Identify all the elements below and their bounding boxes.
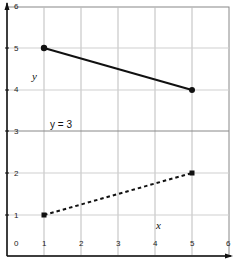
y-tick-label: 5 (14, 44, 19, 53)
y-tick-label: 1 (14, 211, 19, 220)
point-5-4 (189, 87, 195, 93)
y-tick-label: 4 (14, 85, 19, 94)
y-tick-label: 3 (14, 127, 19, 136)
point-5-2 (190, 171, 195, 176)
x-tick-label: 2 (79, 239, 84, 248)
chart: 1 2 3 4 5 6 0 1 2 3 4 5 6 y x y = 3 (0, 0, 233, 260)
y-axis-arrow-icon (5, 2, 10, 10)
y-tick-label: 6 (14, 2, 19, 11)
y-tick-label: 2 (14, 169, 19, 178)
x-axis-label: x (155, 219, 161, 231)
x-tick-label: 1 (42, 239, 47, 248)
origin-label: 0 (14, 239, 19, 248)
x-tick-label: 3 (116, 239, 121, 248)
y-axis-label: y (31, 70, 37, 82)
x-tick-label: 4 (153, 239, 158, 248)
point-1-1 (42, 213, 47, 218)
x-tick-label: 6 (226, 239, 231, 248)
point-1-5 (41, 45, 47, 51)
x-tick-label: 5 (190, 239, 195, 248)
y-equals-3-annotation: y = 3 (50, 119, 72, 130)
